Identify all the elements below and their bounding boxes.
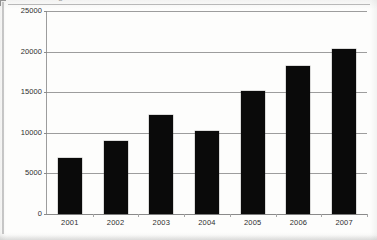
y-axis-tick-label: 20000	[2, 48, 42, 56]
x-axis-tick-label: 2002	[93, 219, 139, 227]
x-axis-tick	[321, 214, 322, 217]
scan-bottom-shadow	[0, 235, 377, 240]
x-axis-labels: 2001200220032004200520062007	[47, 219, 367, 235]
y-axis-tick	[44, 52, 47, 53]
y-axis-tick-label: 10000	[2, 129, 42, 137]
x-axis-tick	[367, 214, 368, 217]
y-axis-line	[46, 11, 47, 215]
x-axis-tick-label: 2004	[184, 219, 230, 227]
y-axis-labels: 0500010000150002000025000	[0, 0, 42, 240]
x-axis-tick	[138, 214, 139, 217]
y-axis-tick	[44, 173, 47, 174]
y-axis-tick-label: 15000	[2, 88, 42, 96]
x-axis-tick-label: 2006	[276, 219, 322, 227]
x-axis-tick	[230, 214, 231, 217]
x-axis-tick	[184, 214, 185, 217]
chart-page: g 0500010000150002000025000 200120022003…	[0, 0, 377, 240]
x-axis-tick	[93, 214, 94, 217]
x-axis-tick-label: 2005	[230, 219, 276, 227]
x-axis-tick	[276, 214, 277, 217]
y-axis-tick	[44, 92, 47, 93]
y-axis-tick	[44, 133, 47, 134]
x-axis-tick-label: 2007	[321, 219, 367, 227]
y-axis-tick	[44, 214, 47, 215]
y-axis-tick-label: 25000	[2, 7, 42, 15]
x-axis-ticks	[47, 0, 367, 240]
x-axis-tick-label: 2001	[47, 219, 93, 227]
y-axis-tick-label: 0	[2, 210, 42, 218]
y-axis-tick-label: 5000	[2, 169, 42, 177]
y-axis-tick	[44, 11, 47, 12]
x-axis-tick-label: 2003	[138, 219, 184, 227]
